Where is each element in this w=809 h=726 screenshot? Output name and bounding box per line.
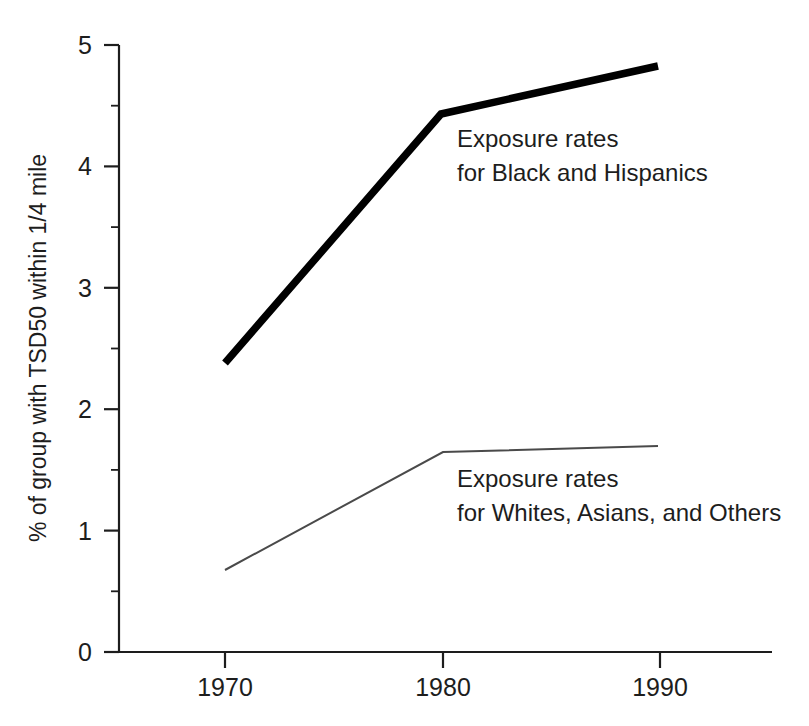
x-tick-labels: 1970 1980 1990 [197,673,688,701]
y-axis-title: % of group with TSD50 within 1/4 mile [25,154,51,542]
axes-group [119,45,772,652]
x-axis-ticks [225,652,660,668]
annot-upper-line2: for Black and Hispanics [457,159,708,186]
x-tick-label-1970: 1970 [197,673,253,701]
annotation-black-hispanics: Exposure rates for Black and Hispanics [457,125,708,186]
y-tick-label-4: 4 [78,152,92,180]
y-tick-labels: 5 4 3 2 1 0 [78,31,92,666]
series-line-black-hispanics [225,66,658,363]
annot-lower-line1: Exposure rates [457,465,618,492]
y-tick-label-2: 2 [78,395,92,423]
x-tick-label-1990: 1990 [632,673,688,701]
chart-figure: 5 4 3 2 1 0 1970 1980 1990 % of group wi… [0,0,809,726]
x-tick-label-1980: 1980 [415,673,471,701]
annot-upper-line1: Exposure rates [457,125,618,152]
y-tick-label-5: 5 [78,31,92,59]
chart-canvas: 5 4 3 2 1 0 1970 1980 1990 % of group wi… [0,0,809,726]
y-axis-minor-ticks [111,106,119,592]
y-tick-label-3: 3 [78,274,92,302]
annotation-whites-asians-others: Exposure rates for Whites, Asians, and O… [457,465,781,526]
y-tick-label-0: 0 [78,638,92,666]
annot-lower-line2: for Whites, Asians, and Others [457,499,781,526]
y-tick-label-1: 1 [78,517,92,545]
